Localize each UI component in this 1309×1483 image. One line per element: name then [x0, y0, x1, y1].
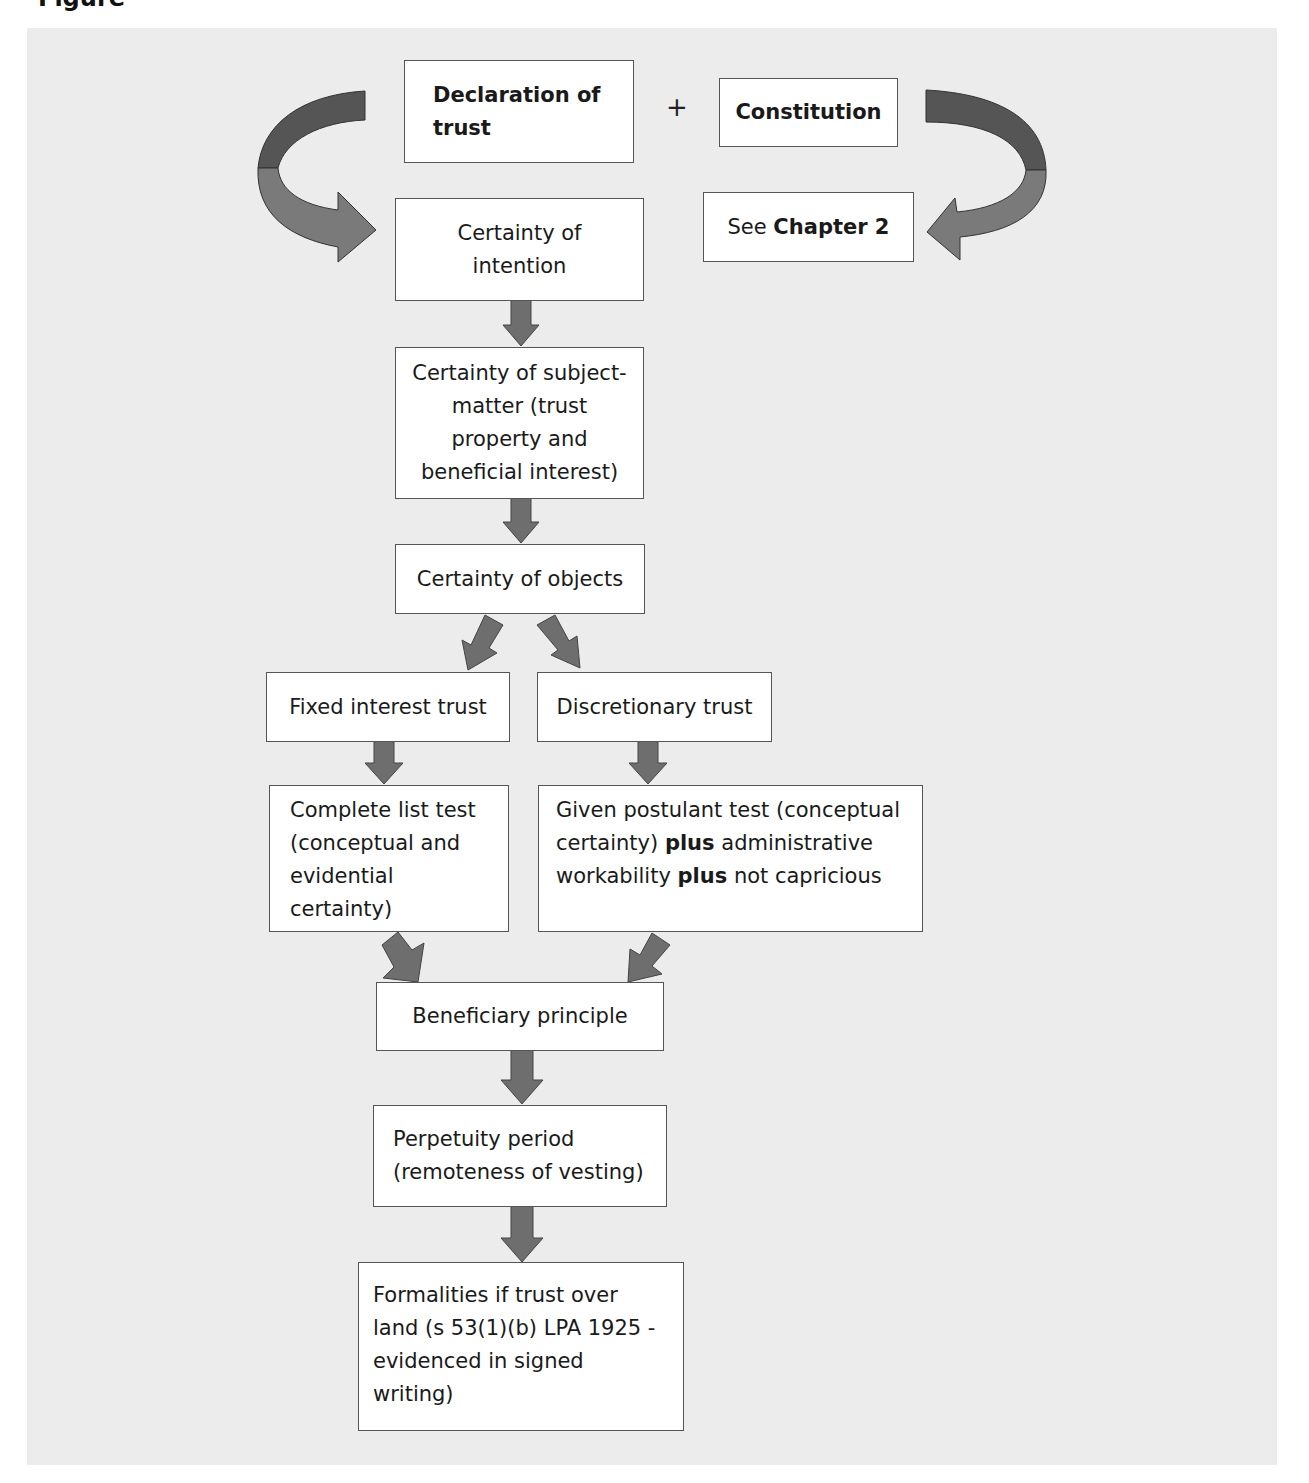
certainty-of-objects-box: Certainty of objects: [395, 544, 645, 614]
perpetuity-period-box: Perpetuity period (remoteness of vesting…: [373, 1105, 667, 1207]
certainty-of-objects-label: Certainty of objects: [396, 563, 644, 596]
down-arrow-icon: [503, 300, 539, 346]
certainty-of-intention-label: Certainty of intention: [396, 217, 643, 283]
certainty-of-subject-matter-label: Certainty of subject-matter (trust prope…: [396, 357, 643, 489]
beneficiary-principle-label: Beneficiary principle: [377, 1000, 663, 1033]
diagonal-arrow-down-right-icon: [537, 615, 580, 668]
certainty-of-subject-matter-box: Certainty of subject-matter (trust prope…: [395, 347, 644, 499]
discretionary-trust-box: Discretionary trust: [537, 672, 772, 742]
diagonal-arrow-down-left-icon: [628, 933, 670, 982]
down-arrow-icon: [501, 1050, 543, 1104]
discretionary-trust-label: Discretionary trust: [538, 691, 771, 724]
plus-keyword: plus: [665, 831, 715, 855]
curved-arrow-left-icon: [258, 91, 376, 262]
down-arrow-icon: [501, 1206, 543, 1262]
given-postulant-part3: not capricious: [734, 864, 882, 888]
declaration-of-trust-label: Declaration of trust: [433, 79, 603, 145]
down-arrow-icon: [629, 741, 667, 784]
beneficiary-principle-box: Beneficiary principle: [376, 982, 664, 1051]
see-prefix: See: [728, 215, 767, 239]
plus-sign: +: [666, 92, 688, 122]
curved-arrow-right-icon: [926, 90, 1046, 260]
constitution-box: Constitution: [719, 78, 898, 147]
complete-list-test-label: Complete list test (conceptual and evide…: [290, 794, 488, 926]
complete-list-test-box: Complete list test (conceptual and evide…: [269, 785, 509, 932]
fixed-interest-trust-box: Fixed interest trust: [266, 672, 510, 742]
formalities-label: Formalities if trust over land (s 53(1)(…: [373, 1279, 669, 1411]
constitution-label: Constitution: [720, 96, 897, 129]
see-chapter-box: See Chapter 2: [703, 192, 914, 262]
see-chapter-label: See Chapter 2: [704, 211, 913, 244]
given-postulant-test-box: Given postulant test (conceptual certain…: [538, 785, 923, 932]
given-postulant-test-label: Given postulant test (conceptual certain…: [556, 794, 908, 893]
perpetuity-period-label: Perpetuity period (remoteness of vesting…: [393, 1123, 652, 1189]
plus-keyword: plus: [678, 864, 728, 888]
diagonal-arrow-down-right-icon: [382, 932, 424, 982]
certainty-of-intention-box: Certainty of intention: [395, 198, 644, 301]
down-arrow-icon: [365, 741, 403, 784]
diagonal-arrow-down-left-icon: [462, 615, 503, 670]
down-arrow-icon: [503, 498, 539, 543]
fixed-interest-trust-label: Fixed interest trust: [267, 691, 509, 724]
chapter-reference: Chapter 2: [773, 215, 889, 239]
formalities-box: Formalities if trust over land (s 53(1)(…: [358, 1262, 684, 1431]
declaration-of-trust-box: Declaration of trust: [404, 60, 634, 163]
